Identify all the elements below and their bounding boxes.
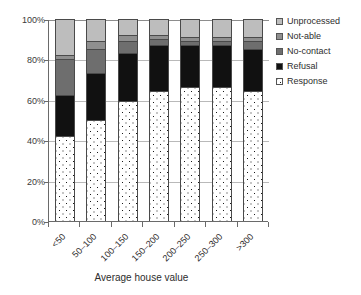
legend-item[interactable]: No-contact xyxy=(276,44,361,59)
bar-segment-response[interactable] xyxy=(181,88,199,221)
bar-segment-refusal[interactable] xyxy=(181,46,199,88)
bar-segment-unprocessed[interactable] xyxy=(150,20,168,36)
legend-swatch-response xyxy=(276,78,283,85)
bar-segment-unprocessed[interactable] xyxy=(213,20,231,38)
bar-segment-refusal[interactable] xyxy=(244,50,262,92)
x-axis-tick-mark xyxy=(268,222,269,227)
bar-segment-response[interactable] xyxy=(56,137,74,221)
bar-segment-refusal[interactable] xyxy=(213,46,231,88)
legend-item[interactable]: Response xyxy=(276,74,361,89)
stacked-bar[interactable] xyxy=(212,19,232,221)
legend-item-label: Not-able xyxy=(287,32,321,41)
plot-area xyxy=(48,20,268,222)
y-axis-tick-label: 20% xyxy=(27,178,45,187)
bar-segment-unprocessed[interactable] xyxy=(119,20,137,36)
bar-segment-unprocessed[interactable] xyxy=(181,20,199,38)
legend-swatch-no-contact xyxy=(276,48,283,55)
bar-segment-unprocessed[interactable] xyxy=(87,20,105,42)
legend-item[interactable]: Not-able xyxy=(276,29,361,44)
stacked-bar[interactable] xyxy=(243,19,263,221)
bar-segment-response[interactable] xyxy=(244,92,262,221)
legend-item-label: Response xyxy=(287,77,328,86)
bar-segment-refusal[interactable] xyxy=(119,54,137,102)
chart-legend: UnprocessedNot-ableNo-contactRefusalResp… xyxy=(276,14,361,89)
chart-figure: 0%20%40%60%80%100% <5050–100100–150150–2… xyxy=(0,0,361,295)
bar-segment-no-contact[interactable] xyxy=(244,42,262,50)
y-axis-tick-label: 80% xyxy=(27,56,45,65)
legend-swatch-refusal xyxy=(276,63,283,70)
x-axis-tick-mark xyxy=(205,222,206,227)
bar-segment-response[interactable] xyxy=(150,92,168,221)
stacked-bar[interactable] xyxy=(55,19,75,221)
bar-segment-no-contact[interactable] xyxy=(87,50,105,74)
bar-segment-no-contact[interactable] xyxy=(119,42,137,54)
bar-segment-unprocessed[interactable] xyxy=(56,20,74,56)
bar-segment-no-contact[interactable] xyxy=(56,60,74,96)
x-axis-tick-mark xyxy=(79,222,80,227)
bar-segment-refusal[interactable] xyxy=(87,74,105,120)
stacked-bar[interactable] xyxy=(86,19,106,221)
x-axis-tick-mark xyxy=(111,222,112,227)
x-axis-tick-mark xyxy=(237,222,238,227)
y-axis-tick-label: 100% xyxy=(22,16,45,25)
x-axis-title: Average house value xyxy=(0,272,361,283)
legend-item-label: Unprocessed xyxy=(287,17,340,26)
legend-swatch-not-able xyxy=(276,33,283,40)
legend-item-label: Refusal xyxy=(287,62,318,71)
y-axis-tick-label: 60% xyxy=(27,97,45,106)
legend-swatch-unprocessed xyxy=(276,18,283,25)
y-axis-tick-label: 40% xyxy=(27,137,45,146)
x-axis-tick-mark xyxy=(48,222,49,227)
bar-segment-response[interactable] xyxy=(119,102,137,221)
x-axis-title-text: Average house value xyxy=(95,272,189,283)
x-axis-tick-mark xyxy=(174,222,175,227)
bar-segment-refusal[interactable] xyxy=(150,46,168,92)
bar-segment-response[interactable] xyxy=(87,121,105,222)
x-axis-tick-mark xyxy=(142,222,143,227)
stacked-bar[interactable] xyxy=(149,19,169,221)
legend-item-label: No-contact xyxy=(287,47,331,56)
stacked-bar[interactable] xyxy=(118,19,138,221)
stacked-bar[interactable] xyxy=(180,19,200,221)
bar-segment-not-able[interactable] xyxy=(87,42,105,50)
bar-segment-response[interactable] xyxy=(213,88,231,221)
bar-segment-unprocessed[interactable] xyxy=(244,20,262,38)
bar-segment-refusal[interactable] xyxy=(56,96,74,136)
legend-item[interactable]: Refusal xyxy=(276,59,361,74)
legend-item[interactable]: Unprocessed xyxy=(276,14,361,29)
